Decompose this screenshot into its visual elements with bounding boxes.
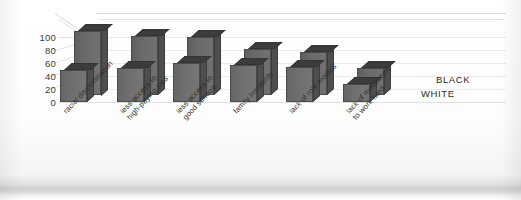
legend-item-black: BLACK: [436, 74, 470, 85]
chart-plot-area: 100 80 60 40 20 0 racial discriminationl…: [0, 0, 521, 200]
scanned-chart-page: 100 80 60 40 20 0 racial discriminationl…: [0, 0, 521, 200]
legend-item-white: WHITE: [421, 88, 455, 99]
chart-legend: BLACK WHITE: [0, 0, 521, 200]
